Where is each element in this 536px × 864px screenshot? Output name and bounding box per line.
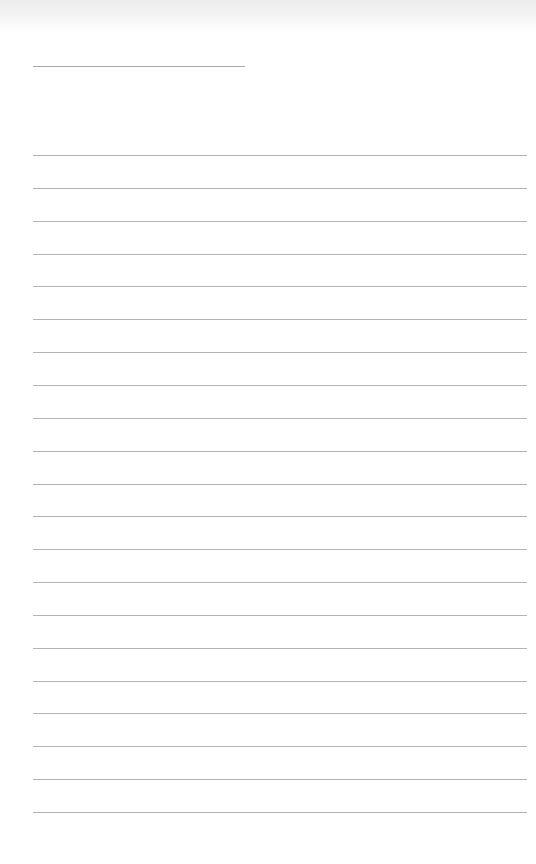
ruled-line [33,254,527,255]
ruled-line [33,319,527,320]
ruled-line [33,385,527,386]
ruled-line [33,779,527,780]
ruled-line [33,746,527,747]
title-line [33,66,245,67]
ruled-line [33,451,527,452]
ruled-line [33,155,527,156]
ruled-line [33,582,527,583]
ruled-line [33,812,527,813]
ruled-line [33,648,527,649]
ruled-line [33,352,527,353]
ruled-line [33,615,527,616]
ruled-line [33,681,527,682]
ruled-line [33,516,527,517]
ruled-line [33,549,527,550]
ruled-line [33,286,527,287]
ruled-line [33,484,527,485]
ruled-line [33,221,527,222]
ruled-line [33,418,527,419]
scan-top-shade [0,0,536,34]
ruled-line [33,188,527,189]
ruled-line [33,713,527,714]
